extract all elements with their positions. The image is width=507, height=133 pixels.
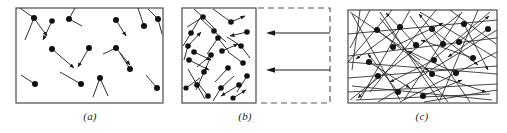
molecule-vectors-c: [356, 13, 491, 99]
kinetic-gas-compression-figure: (a): [0, 0, 507, 133]
panel-a-svg: [0, 0, 175, 110]
panel-c-caption: (c): [402, 110, 442, 122]
vacated-volume-dashed-region: [258, 8, 330, 103]
compression-arrow-top: [266, 30, 330, 36]
gas-container-a: [16, 8, 163, 103]
panel-a: (a): [0, 0, 175, 110]
panel-b-caption: (b): [225, 110, 265, 122]
gas-container-b: [182, 8, 256, 103]
panel-a-caption: (a): [70, 110, 110, 122]
gas-container-c: [348, 10, 497, 103]
background-trajectories-c: [348, 10, 497, 102]
molecule-vectors-b: [183, 9, 250, 101]
compression-arrow-bottom: [266, 67, 330, 73]
